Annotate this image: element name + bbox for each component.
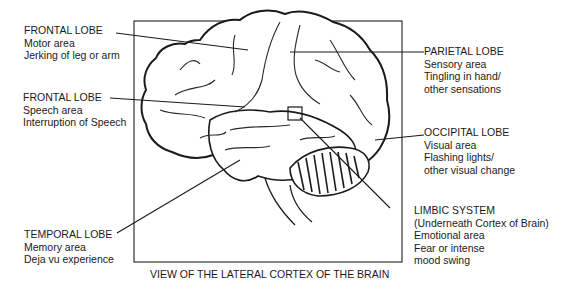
label-line: Deja vu experience <box>24 253 114 266</box>
label-parietal: PARIETAL LOBE Sensory area Tingling in h… <box>424 45 504 95</box>
label-line: Speech area <box>23 104 126 117</box>
label-line: other visual change <box>424 164 515 177</box>
label-line: Emotional area <box>414 229 549 242</box>
label-title: FRONTAL LOBE <box>24 24 120 37</box>
label-line: (Underneath Cortex of Brain) <box>414 217 549 230</box>
label-line: Interruption of Speech <box>23 116 126 129</box>
label-line: Flashing lights/ <box>424 151 515 164</box>
label-frontal-speech: FRONTAL LOBE Speech area Interruption of… <box>23 91 126 129</box>
label-line: Jerking of leg or arm <box>24 49 120 62</box>
label-frontal-motor: FRONTAL LOBE Motor area Jerking of leg o… <box>24 24 120 62</box>
label-occipital: OCCIPITAL LOBE Visual area Flashing ligh… <box>424 126 515 176</box>
label-title: OCCIPITAL LOBE <box>424 126 515 139</box>
diagram-caption: VIEW OF THE LATERAL CORTEX OF THE BRAIN <box>150 268 389 280</box>
label-limbic: LIMBIC SYSTEM (Underneath Cortex of Brai… <box>414 204 549 267</box>
label-title: LIMBIC SYSTEM <box>414 204 549 217</box>
label-line: mood swing <box>414 254 549 267</box>
leader-temporal <box>117 160 240 233</box>
label-line: Motor area <box>24 37 120 50</box>
label-line: other sensations <box>424 83 504 96</box>
label-title: PARIETAL LOBE <box>424 45 504 58</box>
label-title: FRONTAL LOBE <box>23 91 126 104</box>
label-line: Memory area <box>24 241 114 254</box>
label-temporal: TEMPORAL LOBE Memory area Deja vu experi… <box>24 228 114 266</box>
label-line: Fear or intense <box>414 242 549 255</box>
label-line: Visual area <box>424 139 515 152</box>
label-line: Sensory area <box>424 58 504 71</box>
label-title: TEMPORAL LOBE <box>24 228 114 241</box>
label-line: Tingling in hand/ <box>424 70 504 83</box>
